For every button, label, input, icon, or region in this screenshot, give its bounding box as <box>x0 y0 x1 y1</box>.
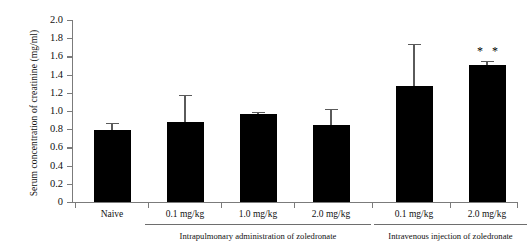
error-bar-cap <box>325 109 338 110</box>
y-axis-tick-label: 1.6 <box>50 51 63 62</box>
x-axis-category-label: 2.0 mg/kg <box>312 209 351 219</box>
y-axis-tick <box>67 202 73 203</box>
y-axis-tick-label: 1.4 <box>50 69 63 80</box>
bar <box>240 114 277 202</box>
y-axis-tick-label: 2.0 <box>50 15 63 26</box>
y-axis-tick <box>67 111 73 112</box>
error-bar-cap <box>481 61 494 62</box>
error-bar-cap <box>408 44 421 45</box>
y-axis-tick <box>67 20 73 21</box>
x-axis-category-label: Naive <box>101 209 124 219</box>
significance-marker: * * <box>477 44 501 59</box>
error-bar <box>330 109 331 124</box>
y-axis-tick <box>67 184 73 185</box>
y-axis-tick <box>67 166 73 167</box>
x-axis-tick <box>294 203 295 208</box>
x-axis-category-label: 0.1 mg/kg <box>395 209 434 219</box>
y-axis-tick <box>67 93 73 94</box>
y-axis-tick-label: 0.2 <box>50 179 63 190</box>
bar <box>94 130 131 202</box>
error-bar-cap <box>179 95 192 96</box>
group-underline <box>145 224 371 225</box>
y-axis-tick-label: 0.4 <box>50 160 63 171</box>
error-bar <box>184 95 185 122</box>
y-axis-tick-label: 0.8 <box>50 124 63 135</box>
error-bar-cap <box>106 123 119 124</box>
y-axis-tick <box>67 75 73 76</box>
x-axis-category-label: 0.1 mg/kg <box>166 209 205 219</box>
group-caption: Intravenous injection of zoledronate <box>388 231 512 241</box>
group-underline <box>374 224 527 225</box>
x-axis-tick <box>75 203 76 208</box>
figure-bar-chart: Serum concentration of creatinine (mg/ml… <box>0 0 527 249</box>
x-axis-tick <box>221 203 222 208</box>
group-caption: Intrapulmonary administration of zoledro… <box>180 231 337 241</box>
error-bar <box>413 44 414 87</box>
bar <box>167 122 204 202</box>
y-axis-tick <box>67 129 73 130</box>
y-axis-tick-label: 0 <box>58 197 63 208</box>
error-bar-cap <box>252 112 265 113</box>
x-axis-tick <box>372 203 373 208</box>
y-axis-tick-label: 0.6 <box>50 142 63 153</box>
x-axis-category-label: 2.0 mg/kg <box>468 209 507 219</box>
y-axis-tick-label: 1.2 <box>50 88 63 99</box>
y-axis-tick <box>67 38 73 39</box>
y-axis-tick-label: 1.8 <box>50 33 63 44</box>
plot-area: 2.01.81.61.41.21.00.80.60.40.20 * * <box>72 21 518 203</box>
y-axis-tick <box>67 56 73 57</box>
bar <box>313 125 350 202</box>
y-axis-title: Serum concentration of creatinine (mg/ml… <box>29 13 39 213</box>
x-axis-tick <box>148 203 149 208</box>
y-axis-tick <box>67 147 73 148</box>
x-axis-tick <box>450 203 451 208</box>
x-axis-tick <box>517 203 518 208</box>
bar <box>396 86 433 202</box>
bar <box>469 65 506 202</box>
x-axis-category-label: 1.0 mg/kg <box>239 209 278 219</box>
y-axis-tick-label: 1.0 <box>50 106 63 117</box>
